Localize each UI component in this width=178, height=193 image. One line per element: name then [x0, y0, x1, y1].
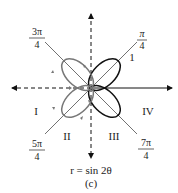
arrow-icon [80, 116, 83, 120]
rose-curve-diagram: π 4 3π 4 5π 4 7π 4 1 I II III IV r = sin… [0, 0, 178, 193]
label-3pi-4-num: 3π [32, 26, 42, 37]
petal-label-1: 1 [129, 51, 135, 63]
label-pi-4-num: π [139, 28, 145, 39]
region-label-I: I [34, 105, 38, 117]
label-5pi-4-den: 4 [35, 151, 40, 162]
label-7pi-4-den: 4 [144, 150, 149, 161]
label-5pi-4-num: 5π [32, 138, 42, 149]
region-label-III: III [109, 130, 120, 142]
arrow-icon [51, 70, 54, 73]
arrow-icon [52, 107, 55, 110]
region-label-II: II [63, 130, 71, 142]
arrow-icon [69, 86, 72, 90]
region-labels: 1 I II III IV [34, 51, 154, 142]
caption-label: (c) [85, 177, 98, 190]
label-7pi-4-num: 7π [141, 137, 151, 148]
angle-labels: π 4 3π 4 5π 4 7π 4 [29, 26, 154, 162]
region-label-IV: IV [142, 105, 154, 117]
label-3pi-4-den: 4 [35, 39, 40, 50]
equation-label: r = sin 2θ [70, 164, 112, 176]
label-pi-4-den: 4 [140, 40, 145, 51]
